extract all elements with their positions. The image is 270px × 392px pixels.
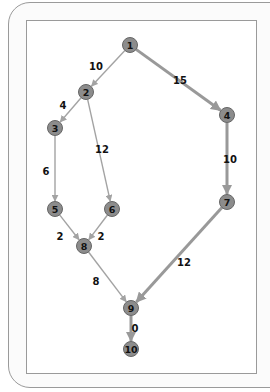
edge-weight-label: 2 bbox=[57, 231, 64, 242]
node-1: 1 bbox=[123, 38, 138, 53]
node-label: 3 bbox=[52, 123, 59, 134]
node-label: 10 bbox=[124, 344, 138, 355]
network-graph: 1015412610228120 12345678910 bbox=[0, 0, 270, 392]
node-label: 4 bbox=[224, 110, 231, 121]
node-6: 6 bbox=[105, 202, 120, 217]
node-label: 6 bbox=[109, 204, 116, 215]
nodes-layer: 12345678910 bbox=[48, 38, 235, 357]
edge-weight-label: 4 bbox=[60, 100, 67, 111]
edge-weight-label: 0 bbox=[132, 323, 139, 334]
edge-weight-label: 12 bbox=[177, 257, 191, 268]
node-2: 2 bbox=[79, 85, 94, 100]
edge-weight-label: 15 bbox=[173, 75, 187, 86]
node-label: 9 bbox=[128, 303, 135, 314]
node-10: 10 bbox=[124, 342, 139, 357]
edge-weight-label: 10 bbox=[223, 154, 237, 165]
edge-weight-label: 2 bbox=[98, 231, 105, 242]
node-label: 8 bbox=[81, 241, 88, 252]
edge-weight-label: 6 bbox=[43, 166, 50, 177]
node-4: 4 bbox=[220, 108, 235, 123]
edge-7-9 bbox=[136, 208, 222, 303]
node-label: 1 bbox=[127, 40, 134, 51]
node-5: 5 bbox=[48, 202, 63, 217]
node-8: 8 bbox=[77, 239, 92, 254]
node-7: 7 bbox=[220, 195, 235, 210]
node-3: 3 bbox=[48, 121, 63, 136]
node-9: 9 bbox=[124, 301, 139, 316]
edge-weight-label: 10 bbox=[89, 61, 103, 72]
node-label: 2 bbox=[83, 87, 90, 98]
node-label: 7 bbox=[224, 197, 231, 208]
edge-weight-label: 8 bbox=[93, 276, 100, 287]
edge-weight-label: 12 bbox=[95, 144, 109, 155]
node-label: 5 bbox=[52, 204, 59, 215]
